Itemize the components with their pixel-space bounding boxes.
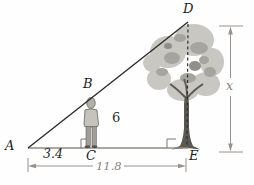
arrow-right-icon (178, 164, 186, 169)
point-label-d: D (183, 2, 193, 15)
measurement-person-height: 6 (112, 111, 120, 124)
measurement-tree-height: x (226, 80, 233, 93)
point-label-c: C (86, 149, 96, 162)
measurement-ae: 11.8 (96, 161, 122, 173)
tree-icon (143, 24, 224, 150)
point-label-b: B (83, 77, 93, 90)
arrow-down-icon (228, 144, 233, 152)
diagram-canvas (0, 0, 254, 185)
person-icon (84, 98, 99, 149)
point-label-e: E (189, 149, 199, 162)
measurement-ac: 3.4 (43, 148, 63, 161)
arrow-left-icon (28, 164, 36, 169)
arrow-up-icon (228, 27, 233, 35)
point-label-a: A (5, 139, 14, 152)
right-angle-marker-e (167, 139, 176, 148)
geometry-diagram: A B C D E 3.4 6 11.8 x (0, 0, 254, 185)
tree-crown (143, 24, 224, 101)
